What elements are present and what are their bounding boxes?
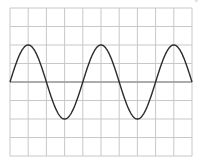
sine-wave-chart [0, 0, 199, 163]
corner-mark-icon: ° [195, 0, 198, 7]
